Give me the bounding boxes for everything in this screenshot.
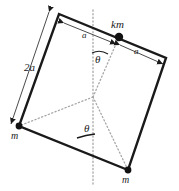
dotted-line-to-km-mass bbox=[93, 37, 119, 97]
label-side-dimension-2a: 2a bbox=[24, 62, 35, 73]
angle-arc-lower bbox=[77, 134, 95, 138]
label-angle-lower-theta: θ bbox=[84, 123, 89, 134]
label-half-left-a: a bbox=[82, 31, 87, 40]
mass-dot-m-bottom bbox=[125, 167, 132, 174]
label-mass-m-left: m bbox=[11, 131, 18, 141]
label-half-right-a: a bbox=[134, 47, 139, 56]
diagram-svg bbox=[0, 0, 179, 191]
label-angle-upper-theta: θ bbox=[95, 54, 100, 65]
label-mass-m-bottom: m bbox=[122, 175, 129, 185]
figure-canvas: 2a a a km m m θ θ bbox=[0, 0, 179, 191]
mass-dot-km bbox=[115, 33, 123, 41]
label-mass-km: km bbox=[111, 19, 124, 30]
dotted-line-to-left-mass bbox=[19, 97, 93, 126]
mass-dot-m-left bbox=[16, 123, 23, 130]
